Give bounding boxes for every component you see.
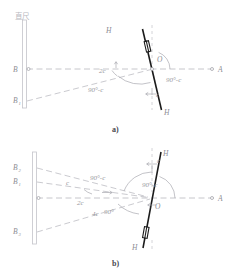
svg-text:B: B <box>13 163 18 172</box>
label-point-o-a: O <box>157 55 163 64</box>
label-point-b1-b: B 1 <box>13 177 21 187</box>
label-point-a-a: A <box>217 65 223 74</box>
svg-text:3: 3 <box>18 232 21 237</box>
optical-alignment-diagram: 直尺 <box>0 0 236 275</box>
figure-root: 直尺 <box>0 0 236 275</box>
label-angle-2c-a: 2c <box>99 67 107 75</box>
sight-line-b2-b <box>37 168 148 197</box>
point-marker-a-a <box>211 68 214 71</box>
svg-text:B: B <box>13 227 18 236</box>
svg-text:1: 1 <box>18 182 20 187</box>
label-angle-4c-b: 4c <box>92 210 100 218</box>
label-angle-c-small-b: c <box>157 157 160 164</box>
angle-arc-c-b <box>84 190 92 195</box>
svg-text:1: 1 <box>18 101 20 106</box>
caption-panel-a: a) <box>112 125 119 134</box>
bubble-level-a <box>144 40 151 52</box>
angle-arc-right-b <box>160 177 176 199</box>
panel-b: B 2 B 1 B 3 O A H H c 90°-c 90°-c 2c 4c … <box>13 148 223 268</box>
angle-arc-lower-left-a <box>118 76 151 84</box>
label-h-lower-b: H <box>131 243 138 252</box>
panel-a: 直尺 <box>13 11 223 134</box>
label-point-a-b: A <box>217 194 223 203</box>
label-angle-90-minus-c-upper-b: 90°-c <box>90 174 106 182</box>
sight-line-b1-b <box>37 182 149 198</box>
label-point-o-b: O <box>155 202 161 211</box>
ruler-label-a: 直尺 <box>15 11 30 21</box>
point-marker-a-b <box>211 197 214 200</box>
label-angle-c-upper-b: c <box>66 179 70 187</box>
caption-panel-b: b) <box>112 259 119 268</box>
label-point-b2-b: B 2 <box>13 163 21 173</box>
label-h-upper-b: H <box>162 149 169 158</box>
label-angle-90-minus-c-left-a: 90°-c <box>88 86 104 94</box>
label-point-b-a: B <box>13 65 18 74</box>
label-point-b3-b: B 3 <box>13 227 21 237</box>
svg-text:B: B <box>13 96 18 105</box>
svg-text:B: B <box>13 177 18 186</box>
svg-text:2: 2 <box>18 168 21 173</box>
ruler-bar-a <box>23 20 27 108</box>
point-marker-o-a <box>151 68 154 71</box>
label-angle-c-a: c <box>156 91 159 98</box>
label-angle-90-minus-c-right-b: 90°-c <box>142 181 158 189</box>
angle-arc-2c-a <box>112 71 118 77</box>
point-marker-b-a <box>27 68 30 71</box>
label-point-b1-a: B 1 <box>13 96 21 106</box>
bubble-level-b <box>143 226 149 239</box>
ruler-bar-b <box>33 152 37 244</box>
label-angle-2c-b: 2c <box>77 199 85 207</box>
label-angle-90-b: 90° <box>104 208 114 216</box>
point-marker-origin-b <box>37 197 40 200</box>
label-angle-90-minus-c-right-a: 90°-c <box>166 76 182 84</box>
label-h-lower-a: H <box>163 108 170 117</box>
label-h-upper-a: H <box>105 26 112 35</box>
